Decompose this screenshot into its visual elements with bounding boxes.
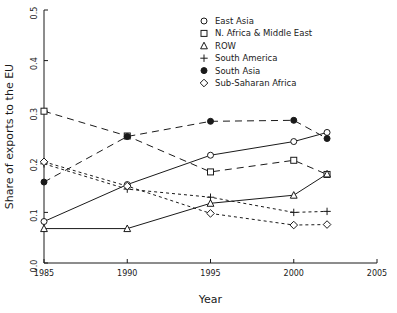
legend-label-south-asia: South Asia (215, 66, 260, 76)
y-axis-title: Share of exports to the EU (3, 64, 16, 209)
x-tick-label: 1995 (200, 269, 220, 278)
series-line-south-asia (44, 120, 327, 182)
x-tick-label: 2000 (284, 269, 304, 278)
y-tick-label: 0.5 (30, 7, 39, 20)
legend-marker-row (201, 42, 208, 49)
data-point-east-asia (291, 139, 297, 145)
data-point-south-asia (41, 179, 47, 185)
data-point-east-asia (208, 152, 214, 158)
legend-label-sub-saharan-africa: Sub-Saharan Africa (215, 78, 296, 88)
data-point-n-africa-middle-east (291, 157, 297, 163)
data-point-n-africa-middle-east (41, 108, 47, 114)
legend-label-east-asia: East Asia (215, 16, 254, 26)
legend-marker-east-asia (201, 18, 207, 24)
data-point-south-asia (324, 136, 330, 142)
series-line-sub-saharan-africa (44, 162, 327, 225)
legend-marker-south-asia (201, 68, 207, 74)
series-line-row (44, 174, 327, 229)
data-point-east-asia (41, 219, 47, 225)
data-point-n-africa-middle-east (208, 169, 214, 175)
y-tick-label: 0.4 (30, 57, 39, 70)
chart-figure: 0.00.10.20.30.40.519851990199520002005Ye… (0, 0, 397, 313)
x-tick-label: 1985 (34, 269, 54, 278)
legend-label-n-africa-middle-east: N. Africa & Middle East (215, 28, 313, 38)
data-point-south-asia (208, 118, 214, 124)
data-point-south-asia (291, 117, 297, 123)
x-tick-label: 1990 (117, 269, 137, 278)
legend-marker-n-africa-middle-east (201, 30, 207, 36)
data-point-south-asia (124, 134, 130, 140)
data-point-sub-saharan-africa (207, 210, 215, 218)
legend-marker-sub-saharan-africa (200, 79, 208, 87)
series-line-south-america (44, 164, 327, 213)
line-chart: 0.00.10.20.30.40.519851990199520002005Ye… (0, 0, 397, 313)
data-point-sub-saharan-africa (323, 221, 331, 229)
x-axis-title: Year (198, 293, 223, 306)
data-point-sub-saharan-africa (290, 221, 298, 229)
data-point-east-asia (324, 129, 330, 135)
x-tick-label: 2005 (367, 269, 387, 278)
legend-label-south-america: South America (215, 53, 277, 63)
y-tick-label: 0.1 (30, 209, 39, 222)
data-point-row (290, 192, 297, 199)
legend-label-row: ROW (215, 41, 237, 51)
y-tick-label: 0.3 (30, 108, 39, 121)
y-tick-label: 0.2 (30, 158, 39, 171)
